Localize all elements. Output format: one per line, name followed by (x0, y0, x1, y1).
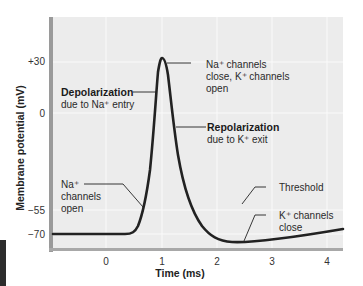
x-tick-0: 0 (103, 256, 109, 267)
page-edge-tab (0, 240, 6, 286)
k-close-line2: close (279, 222, 303, 233)
depolarization-sub: due to Na⁺ entry (61, 99, 134, 110)
k-close-line1: K⁺ channels (279, 210, 333, 221)
na-open-line1: Na⁺ (61, 179, 79, 190)
y-tick-minus55: −55 (28, 205, 45, 216)
x-tick-1: 1 (159, 256, 165, 267)
na-open-line3: open (61, 203, 83, 214)
y-tick-zero: 0 (39, 108, 45, 119)
x-tick-3: 3 (269, 256, 275, 267)
peak-label-line2: close, K⁺ channels (206, 71, 289, 82)
y-axis-bar (49, 17, 53, 252)
x-axis-title: Time (ms) (155, 267, 204, 279)
y-tick-minus70: −70 (28, 229, 45, 240)
threshold-label: Threshold (279, 182, 323, 193)
repolarization-sub: due to K⁺ exit (207, 134, 268, 145)
y-tick-plus30: +30 (28, 56, 45, 67)
x-tick-4: 4 (324, 256, 330, 267)
peak-label-line1: Na⁺ channels (206, 59, 267, 70)
y-axis-title: Membrane potential (mV) (14, 85, 26, 210)
peak-label-line3: open (206, 83, 228, 94)
repolarization-label: Repolarization (207, 121, 279, 133)
depolarization-label: Depolarization (61, 86, 133, 98)
action-potential-chart: +30 0 −55 −70 0 1 2 3 4 Time (ms) Membra… (0, 0, 363, 286)
x-tick-2: 2 (214, 256, 220, 267)
na-open-line2: channels (61, 191, 101, 202)
x-axis-bar (49, 248, 343, 251)
